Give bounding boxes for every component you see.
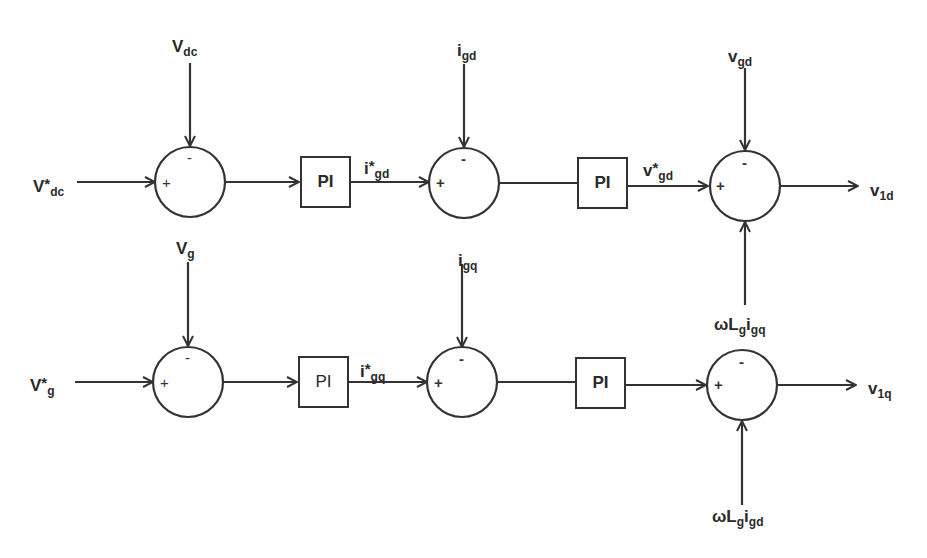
label-coupling-igd: ωLgigd <box>712 508 764 528</box>
sum1-plus-sign: + <box>162 175 171 190</box>
sum2-plus-sign: + <box>436 175 445 190</box>
sum5-minus-sign: - <box>459 351 464 366</box>
label-v1q-output: v1q <box>868 380 891 400</box>
label-vgd-ref: v*gd <box>643 160 673 182</box>
pi-label: PI <box>315 372 331 392</box>
label-vdc: Vdc <box>172 38 197 58</box>
sum6-minus-sign: - <box>739 354 744 369</box>
block-diagram-canvas <box>0 0 927 558</box>
label-vgd: vgd <box>728 48 752 68</box>
sum5-plus-sign: + <box>434 375 443 390</box>
sum3-plus-sign: + <box>716 178 725 193</box>
label-vg: Vg <box>176 240 195 260</box>
pi-controller-current-q: PI <box>575 357 626 409</box>
pi-label: PI <box>317 172 333 192</box>
sum1-minus-sign: - <box>187 150 192 165</box>
label-coupling-igq: ωLgigq <box>714 316 766 336</box>
label-vg-ref: V*g <box>30 375 55 397</box>
pi-controller-voltage-d: PI <box>300 156 351 208</box>
pi-label: PI <box>592 373 608 393</box>
pi-controller-voltage-q: PI <box>298 356 349 408</box>
label-v1d-output: v1d <box>870 182 893 202</box>
sum2-minus-sign: - <box>461 151 466 166</box>
label-igq: igq <box>458 252 477 272</box>
sum4-plus-sign: + <box>160 375 169 390</box>
label-igd-ref: i*gd <box>364 158 389 180</box>
pi-controller-current-d: PI <box>577 157 628 209</box>
sum6-plus-sign: + <box>714 377 723 392</box>
sum4-minus-sign: - <box>185 350 190 365</box>
sum3-minus-sign: - <box>742 155 747 170</box>
pi-label: PI <box>594 173 610 193</box>
label-igd: igd <box>457 42 476 62</box>
label-igq-ref: i*gq <box>360 361 385 383</box>
label-vdc-ref: V*dc <box>33 176 64 198</box>
